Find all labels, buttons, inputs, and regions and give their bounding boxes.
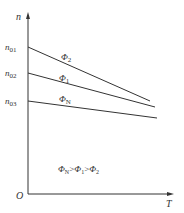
line-phi2 (28, 47, 150, 101)
line-phi1 (28, 73, 155, 107)
origin-label: O (16, 190, 23, 201)
x-axis-label: T (166, 198, 173, 209)
tick-n03: n03 (5, 96, 17, 108)
tick-n02: n02 (5, 68, 17, 80)
x-axis-arrow-icon (167, 192, 174, 196)
y-axis-arrow-icon (26, 12, 30, 19)
y-axis-label: n (16, 11, 21, 22)
label-phiN: ΦN (59, 94, 71, 106)
speed-torque-chart: n T O n01 n02 n03 Φ2 Φ1 ΦN ΦN>Φ1>Φ2 (0, 0, 184, 213)
tick-n01: n01 (5, 42, 17, 54)
line-phiN (28, 101, 157, 118)
annotation-inequality: ΦN>Φ1>Φ2 (58, 164, 99, 175)
